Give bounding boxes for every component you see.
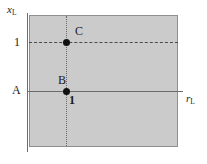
- point-label-c: C: [75, 25, 83, 37]
- shaded-plot-region: [29, 15, 178, 147]
- x-axis-line: [27, 91, 183, 92]
- point-label-b: B: [58, 74, 66, 86]
- dashed-reference-line: [29, 42, 178, 43]
- dotted-reference-line: [66, 16, 67, 146]
- line-label-a: A: [12, 84, 21, 96]
- y-axis-label: xL: [7, 4, 16, 15]
- figure-canvas: xL rL 1 1 C B A: [0, 0, 207, 164]
- x-axis-label-subscript: L: [190, 97, 195, 106]
- y-axis-line: [27, 13, 28, 152]
- x-axis-label: rL: [186, 93, 195, 104]
- x-tick-label-1: 1: [69, 94, 75, 106]
- data-point-c: [63, 39, 70, 46]
- y-axis-label-subscript: L: [12, 8, 17, 17]
- y-tick-label-1: 1: [14, 36, 20, 48]
